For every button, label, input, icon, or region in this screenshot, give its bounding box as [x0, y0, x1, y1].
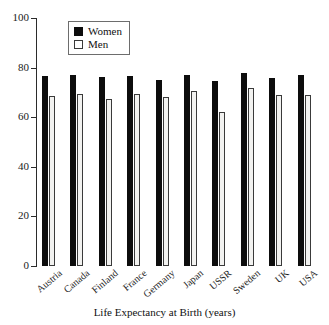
y-tick-label: 40: [18, 161, 29, 172]
bar-women: [99, 77, 105, 266]
y-tick-label: 80: [18, 62, 29, 73]
bar-women: [298, 75, 304, 266]
bar-men: [163, 97, 169, 266]
bar-men: [276, 95, 282, 266]
x-category-label: Finland: [90, 268, 120, 295]
bar-men: [248, 88, 254, 266]
y-tick-label-wrap: 60: [0, 111, 29, 122]
legend-item-women: Women: [74, 25, 122, 38]
plot-area: [36, 18, 323, 266]
y-tick-label: 0: [24, 260, 30, 271]
y-tick-label: 60: [18, 111, 29, 122]
legend-label-women: Women: [88, 26, 122, 37]
y-tick-label-wrap: 40: [0, 161, 29, 172]
bar-women: [269, 78, 275, 266]
y-tick-mark: [31, 266, 36, 267]
bar-women: [212, 81, 218, 267]
x-category-label: Germany: [142, 268, 177, 300]
x-category-label: Austria: [34, 268, 63, 295]
bar-men: [77, 94, 83, 266]
y-tick-label-wrap: 100: [0, 12, 29, 23]
x-category-label: USSR: [208, 268, 234, 292]
bar-group: [42, 18, 56, 266]
bar-men: [106, 99, 112, 266]
bar-women: [184, 75, 190, 266]
x-axis-title: Life Expectancy at Birth (years): [0, 306, 329, 318]
y-tick-label: 20: [18, 210, 29, 221]
bar-women: [42, 76, 48, 266]
legend-swatch-men-icon: [74, 40, 83, 49]
bar-group: [70, 18, 84, 266]
bar-group: [241, 18, 255, 266]
bar-women: [70, 75, 76, 266]
y-tick-label: 100: [13, 12, 30, 23]
x-category-label: Canada: [62, 268, 91, 295]
x-category-label: UK: [273, 268, 290, 285]
x-category-label: USA: [297, 268, 319, 289]
bar-group: [127, 18, 141, 266]
y-tick-label-wrap: 80: [0, 62, 29, 73]
bar-group: [156, 18, 170, 266]
bar-group: [184, 18, 198, 266]
bar-women: [156, 80, 162, 266]
chart-legend: Women Men: [68, 21, 130, 55]
legend-swatch-women-icon: [74, 27, 83, 36]
bar-chart: 020406080100 AustriaCanadaFinlandFranceG…: [0, 0, 329, 325]
bar-men: [191, 91, 197, 266]
bar-men: [305, 95, 311, 266]
x-category-label: Japan: [182, 268, 206, 290]
bar-group: [269, 18, 283, 266]
legend-label-men: Men: [88, 39, 108, 50]
bar-group: [298, 18, 312, 266]
x-category-label: Sweden: [232, 268, 263, 296]
bar-men: [49, 96, 55, 266]
bar-women: [127, 76, 133, 266]
y-tick-label-wrap: 0: [0, 260, 29, 271]
legend-item-men: Men: [74, 38, 122, 51]
bar-group: [212, 18, 226, 266]
bar-group: [99, 18, 113, 266]
y-tick-label-wrap: 20: [0, 210, 29, 221]
bar-men: [219, 112, 225, 266]
bar-men: [134, 94, 140, 266]
bar-women: [241, 73, 247, 266]
